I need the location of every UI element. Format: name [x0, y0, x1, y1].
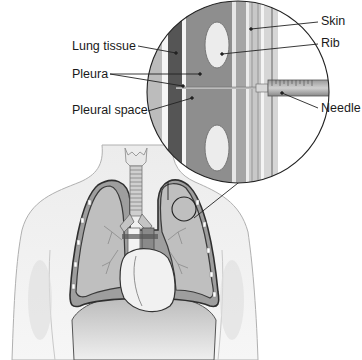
label-rib: Rib: [321, 37, 340, 50]
label-skin: Skin: [321, 15, 345, 28]
thoracentesis-diagram: [0, 0, 362, 360]
label-needle: Needle: [321, 102, 361, 115]
label-pleural-space: Pleural space: [72, 104, 148, 117]
label-pleura: Pleura: [72, 68, 108, 81]
label-lung-tissue: Lung tissue: [72, 40, 136, 53]
heart: [120, 249, 175, 312]
